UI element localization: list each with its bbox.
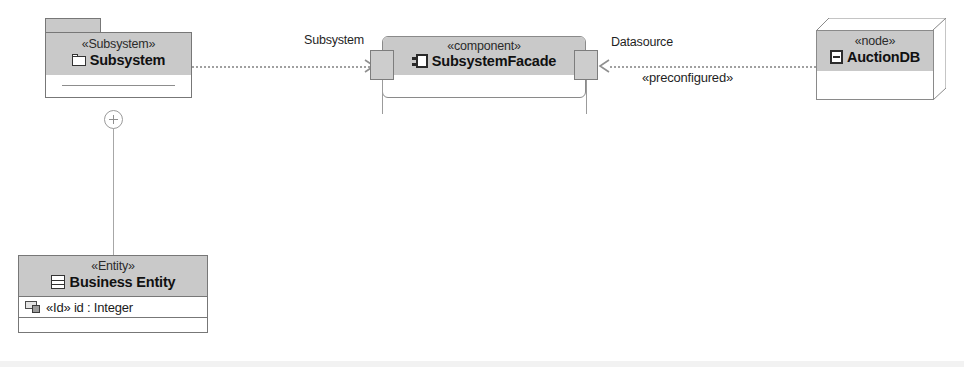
class-stereotype: «Entity»	[19, 259, 207, 273]
package-body: «Subsystem» Subsystem	[45, 32, 192, 98]
node-name-row: AuctionDB	[817, 49, 933, 65]
class-name: Business Entity	[70, 274, 176, 290]
datasource-link-stereotype: «preconfigured»	[642, 70, 733, 85]
page-bottom-edge	[0, 361, 964, 367]
key-attribute-icon	[25, 300, 41, 314]
datasource-link-line[interactable]	[610, 66, 816, 68]
component-stereotype: «component»	[383, 39, 585, 53]
component-box: «component» SubsystemFacade	[382, 36, 586, 98]
datasource-port[interactable]	[574, 50, 598, 80]
left-port-stem	[382, 80, 383, 114]
folder-icon	[72, 54, 86, 66]
class-box: «Entity» Business Entity «Id» id : Integ…	[18, 255, 208, 333]
component-subsystem-facade[interactable]: «component» SubsystemFacade	[382, 36, 586, 98]
subsystem-port[interactable]	[370, 50, 394, 80]
node-header: «node» AuctionDB	[817, 31, 933, 71]
component-header: «component» SubsystemFacade	[383, 37, 585, 75]
package-name-row: Subsystem	[46, 52, 191, 68]
containment-circle-plus-icon[interactable]	[104, 110, 123, 129]
class-icon	[51, 275, 65, 289]
class-header: «Entity» Business Entity	[19, 256, 207, 297]
node-front-face: «node» AuctionDB	[816, 30, 934, 100]
component-icon	[412, 54, 428, 68]
class-attribute-row[interactable]: «Id» id : Integer	[19, 297, 207, 318]
component-name: SubsystemFacade	[432, 53, 556, 69]
node-name: AuctionDB	[847, 49, 920, 65]
node-stereotype: «node»	[817, 34, 933, 48]
datasource-link-label: Datasource	[611, 35, 673, 49]
package-tab	[45, 18, 101, 33]
node-icon	[830, 50, 843, 64]
package-subsystem[interactable]: «Subsystem» Subsystem	[45, 18, 192, 98]
right-port-stem	[586, 80, 587, 114]
package-compartment-divider	[62, 85, 175, 86]
node-auctiondb[interactable]: «node» AuctionDB	[816, 18, 946, 100]
package-stereotype: «Subsystem»	[46, 37, 191, 51]
subsystem-link-line[interactable]	[192, 66, 370, 68]
node-side-face	[933, 18, 946, 100]
datasource-link-arrowhead	[598, 59, 610, 73]
component-name-row: SubsystemFacade	[383, 53, 585, 69]
containment-line[interactable]	[113, 128, 114, 256]
class-name-row: Business Entity	[19, 274, 207, 290]
subsystem-link-label: Subsystem	[304, 33, 364, 47]
package-name: Subsystem	[90, 52, 166, 68]
uml-diagram-canvas: «Subsystem» Subsystem «Entity»	[0, 0, 964, 367]
class-business-entity[interactable]: «Entity» Business Entity «Id» id : Integ…	[18, 255, 208, 333]
class-attribute-text: «Id» id : Integer	[46, 300, 133, 315]
package-header: «Subsystem» Subsystem	[46, 33, 191, 75]
